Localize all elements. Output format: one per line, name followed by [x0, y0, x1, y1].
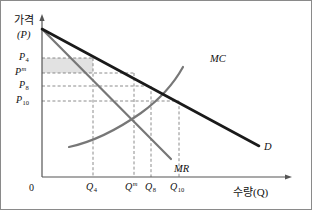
quantity-tick-qm-sup: m [133, 180, 138, 187]
plot-canvas [1, 1, 312, 210]
price-tick-pm: Pm [15, 67, 26, 77]
curve-label-mr: MR [174, 164, 189, 175]
curve-label-mc: MC [210, 54, 226, 65]
y-axis-title-korean: 가격 [14, 15, 34, 26]
quantity-tick-q4-base: Q [86, 181, 93, 192]
price-tick-p4-sub: 4 [26, 56, 29, 63]
x-axis-title: 수량(Q) [233, 187, 268, 198]
origin-label: 0 [29, 183, 34, 193]
price-tick-p8-base: P [19, 79, 25, 90]
price-tick-p10-base: P [16, 94, 22, 105]
shaded-region [42, 58, 93, 73]
price-tick-p8: P8 [19, 80, 28, 90]
price-tick-p10-sub: 10 [23, 99, 30, 106]
price-tick-p4-base: P [19, 51, 25, 62]
quantity-tick-q10: Q10 [170, 182, 184, 192]
x-axis-arrow [285, 174, 292, 179]
economics-diagram-figure: 가격 (P) 수량(Q) 0 P4 Pm P8 P10 Q4 Qm Q8 Q10… [0, 0, 312, 210]
price-tick-p10: P10 [16, 95, 29, 105]
quantity-tick-q10-base: Q [170, 181, 177, 192]
quantity-tick-q10-sub: 10 [178, 186, 185, 193]
quantity-tick-q8-base: Q [145, 181, 152, 192]
price-tick-pm-sup: m [22, 65, 27, 72]
quantity-tick-qm-base: Q [125, 181, 132, 192]
price-tick-pm-base: P [15, 66, 21, 77]
quantity-tick-q8: Q8 [145, 182, 155, 192]
marginal-cost-curve [69, 67, 183, 147]
quantity-tick-q4: Q4 [86, 182, 96, 192]
marginal-revenue-curve [42, 29, 171, 159]
y-axis-title-symbol: (P) [17, 30, 30, 41]
demand-curve [42, 29, 259, 146]
y-axis-arrow [39, 14, 44, 21]
curve-label-d: D [264, 142, 272, 153]
price-tick-p8-sub: 8 [26, 84, 29, 91]
quantity-tick-q8-sub: 8 [153, 186, 156, 193]
quantity-tick-qm: Qm [125, 182, 137, 192]
quantity-tick-q4-sub: 4 [94, 186, 97, 193]
price-tick-p4: P4 [19, 52, 28, 62]
